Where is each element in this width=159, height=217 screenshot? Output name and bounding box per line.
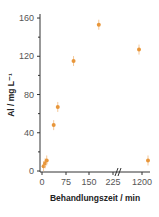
- x-tick-label: 75: [61, 177, 71, 187]
- y-tick-label: 160: [19, 13, 34, 23]
- y-tick-label: 80: [24, 90, 34, 100]
- data-point: [52, 123, 56, 127]
- data-point: [56, 105, 60, 109]
- data-point: [97, 23, 101, 27]
- data-point: [45, 158, 49, 162]
- data-point: [146, 158, 150, 162]
- x-tick-label: 1200: [132, 177, 152, 187]
- x-axis-label: Behandlungszeit / min: [50, 193, 140, 203]
- scatter-chart: 04080120160 0751502251200 Behandlungszei…: [0, 0, 159, 217]
- x-tick-label: 150: [81, 177, 96, 187]
- y-tick-label: 120: [19, 51, 34, 61]
- y-ticks: 04080120160: [19, 13, 40, 176]
- y-tick-label: 40: [24, 128, 34, 138]
- x-ticks: 0751502251200: [39, 172, 152, 187]
- axes: [40, 14, 150, 172]
- x-tick-label: 0: [39, 177, 44, 187]
- x-tick-label: 225: [105, 177, 120, 187]
- data-points: [42, 20, 150, 171]
- data-point: [72, 59, 76, 63]
- y-axis-label: Al / mg L⁻¹: [6, 73, 16, 117]
- y-tick-label: 0: [29, 166, 34, 176]
- data-point: [137, 48, 141, 52]
